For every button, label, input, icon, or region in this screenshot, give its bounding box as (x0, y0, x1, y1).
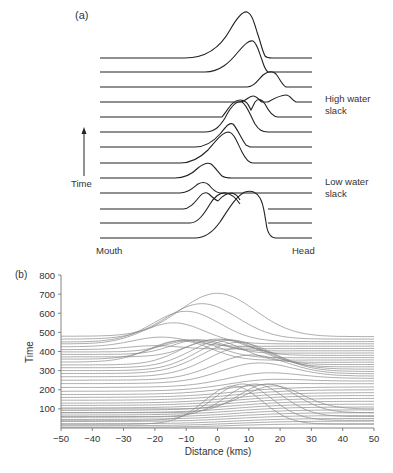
trajectory-line (61, 293, 374, 336)
panel-a-profiles (100, 12, 312, 238)
x-ticks: −50−40−30−20−1001020304050 (53, 428, 379, 444)
mouth-label: Mouth (96, 245, 122, 256)
panel-a: (a) (71, 9, 370, 256)
x-tick-label: 20 (275, 433, 286, 444)
annotation-high-water-line2: slack (325, 105, 347, 116)
trajectory-line (61, 407, 374, 415)
x-tick-label: −10 (178, 433, 194, 444)
panel-b-curves (61, 293, 374, 427)
x-tick-label: −20 (147, 433, 163, 444)
x-tick-label: 30 (306, 433, 317, 444)
y-tick-label: 600 (39, 308, 55, 319)
head-label: Head (292, 245, 315, 256)
x-axis-label: Distance (kms) (185, 446, 252, 457)
profile-line (100, 124, 312, 147)
time-arrow (82, 127, 87, 176)
profile-line (100, 41, 312, 72)
trajectory-line (61, 311, 374, 342)
x-tick-label: −30 (116, 433, 132, 444)
annotation-low-water-line2: slack (325, 188, 347, 199)
figure: (a) (0, 0, 393, 473)
x-tick-label: 50 (369, 433, 380, 444)
panel-a-label: (a) (75, 9, 88, 21)
arrow-up-icon (82, 127, 87, 134)
annotation-high-water-line1: High water (325, 93, 370, 104)
panel-b-label: (b) (15, 269, 27, 280)
y-axis-label: Time (24, 341, 35, 363)
y-tick-label: 300 (39, 365, 55, 376)
x-tick-label: 10 (244, 433, 255, 444)
trajectory-line (61, 304, 374, 339)
y-tick-label: 200 (39, 384, 55, 395)
profile-line (100, 72, 312, 87)
profile-line (100, 193, 240, 223)
y-ticks: 100200300400500600700800 (39, 270, 61, 415)
y-tick-label: 700 (39, 289, 55, 300)
annotation-low-water-line1: Low water (325, 176, 368, 187)
x-tick-label: −50 (53, 433, 69, 444)
profile-line (100, 163, 312, 178)
x-tick-label: 0 (215, 433, 220, 444)
time-label: Time (71, 178, 92, 189)
x-tick-label: 40 (337, 433, 348, 444)
y-tick-label: 100 (39, 403, 55, 414)
y-tick-label: 800 (39, 270, 55, 281)
profile-line (100, 193, 218, 209)
profile-line (100, 191, 312, 238)
profile-line (100, 183, 312, 193)
profile-line (100, 12, 312, 58)
panel-b: (b) 100200300400500600700800 −50−40−30−2… (15, 269, 379, 457)
profile-line (100, 95, 312, 102)
x-tick-label: −40 (84, 433, 100, 444)
y-tick-label: 400 (39, 346, 55, 357)
y-tick-label: 500 (39, 327, 55, 338)
